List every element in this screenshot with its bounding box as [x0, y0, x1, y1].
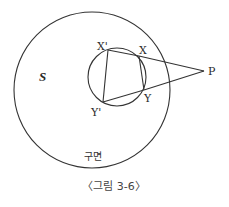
label-x: X	[139, 44, 147, 57]
label-surface: 구면	[84, 151, 102, 162]
segment-xprime-yprime	[103, 50, 108, 102]
label-y-prime: Y'	[90, 106, 101, 119]
sphere-circle	[14, 12, 170, 168]
label-y: Y	[143, 92, 152, 105]
segment-y-p	[144, 71, 204, 90]
inner-circle	[88, 48, 146, 106]
figure-caption: 〈그림 3-6〉	[82, 180, 145, 193]
segment-yprime-y	[103, 90, 144, 102]
segment-x-p	[139, 56, 204, 71]
label-p: P	[208, 65, 216, 78]
diagram-canvas: X' X Y Y' P S 구면 〈그림 3-6〉	[0, 0, 229, 207]
label-x-prime: X'	[97, 40, 108, 53]
segment-xprime-x	[108, 50, 139, 56]
label-sphere-s: S	[39, 69, 46, 84]
